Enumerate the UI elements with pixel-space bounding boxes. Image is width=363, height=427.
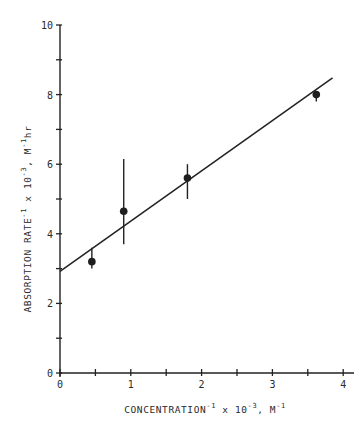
marker [184, 174, 192, 182]
x-tick-label: 1 [128, 379, 134, 390]
y-tick-label: 10 [41, 20, 53, 31]
y-tick-label: 0 [47, 368, 53, 379]
y-axis-ticks: 0246810 [41, 20, 62, 379]
y-tick-label: 4 [47, 229, 53, 240]
y-tick-label: 8 [47, 90, 53, 101]
marker [312, 91, 320, 99]
axes [60, 25, 354, 377]
y-tick-label: 2 [47, 298, 53, 309]
x-axis-label: CONCENTRATION-1 x 10-3, M-1 [124, 402, 286, 415]
y-axis-label: ABSORPTION RATE-1 x 10-3, M-1hr [20, 126, 33, 313]
regression-line [60, 78, 333, 271]
data-point [120, 159, 128, 244]
chart: 01234 0246810 CONCENTRATION-1 x 10-3, M-… [0, 0, 363, 427]
y-tick-label: 6 [47, 159, 53, 170]
x-tick-label: 4 [340, 379, 346, 390]
marker [88, 258, 96, 266]
x-tick-label: 3 [269, 379, 275, 390]
x-tick-label: 0 [57, 379, 63, 390]
x-tick-label: 2 [199, 379, 205, 390]
data-points [88, 91, 320, 269]
fit-line [60, 78, 333, 271]
data-point [184, 164, 192, 199]
x-axis-ticks: 01234 [57, 369, 346, 390]
data-point [312, 91, 320, 102]
marker [120, 207, 128, 215]
